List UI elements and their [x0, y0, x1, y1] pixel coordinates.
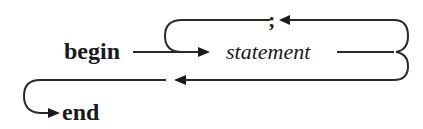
syntax-diagram: begin statement ; end	[0, 0, 423, 129]
arrow-right-icon	[198, 47, 210, 57]
end-keyword: end	[62, 99, 100, 125]
right-lower-curve	[394, 52, 408, 80]
arrow-right-icon	[48, 108, 60, 118]
right-upper-curve	[394, 20, 408, 52]
semicolon-separator: ;	[268, 7, 275, 32]
statement-nonterminal: statement	[226, 39, 311, 64]
arrow-left-icon	[174, 75, 186, 85]
begin-keyword: begin	[64, 38, 120, 64]
